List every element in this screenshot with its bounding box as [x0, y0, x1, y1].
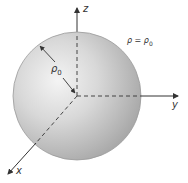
z-axis-label: z [83, 4, 88, 14]
equation-sub: 0 [149, 40, 153, 47]
equation-label: ρ = ρ0 [127, 37, 153, 47]
equation-lhs: ρ = ρ [127, 36, 149, 45]
y-axis-label: y [172, 100, 178, 110]
x-axis-label: x [16, 166, 22, 176]
radius-label-sub: 0 [57, 69, 61, 77]
sphere-diagram [0, 0, 188, 183]
x-axis [8, 143, 36, 174]
radius-label: ρ0 [51, 64, 62, 77]
